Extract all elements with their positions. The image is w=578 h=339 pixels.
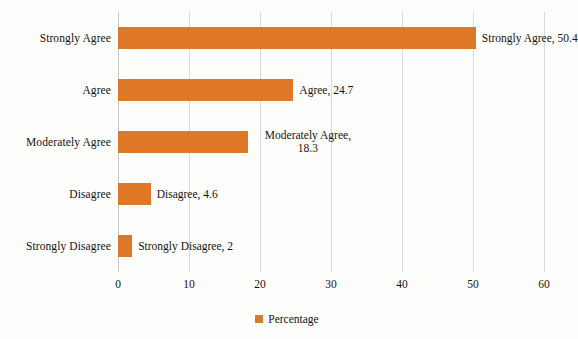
category-label-strongly-agree: Strongly Agree <box>40 32 111 44</box>
bar-moderately-agree[interactable] <box>118 131 248 153</box>
x-tick-label-60: 60 <box>538 278 550 290</box>
bar-row-agree: Agree Agree, 24.7 <box>118 64 544 116</box>
legend: Percentage <box>0 313 574 325</box>
bar-agree[interactable] <box>118 79 293 101</box>
category-label-moderately-agree: Moderately Agree <box>26 136 111 148</box>
data-label-strongly-disagree: Strongly Disagree, 2 <box>132 240 233 253</box>
x-axis-tick-labels: 0102030405060 <box>118 278 544 296</box>
category-label-strongly-disagree: Strongly Disagree <box>26 240 111 252</box>
data-label-moderately-agree: Moderately Agree, 18.3 <box>248 129 362 155</box>
data-label-line-2: 18.3 <box>298 142 318 154</box>
data-label-disagree: Disagree, 4.6 <box>151 188 218 201</box>
legend-swatch-icon <box>255 315 263 323</box>
bar-strongly-agree[interactable] <box>118 27 476 49</box>
x-tick-label-30: 30 <box>325 278 337 290</box>
bar-disagree[interactable] <box>118 183 151 205</box>
x-tick-label-0: 0 <box>115 278 121 290</box>
gridline-60 <box>544 12 545 272</box>
plot-area: Strongly Agree Strongly Agree, 50.4 Agre… <box>118 12 544 272</box>
bar-row-disagree: Disagree Disagree, 4.6 <box>118 168 544 220</box>
x-tick-label-40: 40 <box>396 278 408 290</box>
data-label-line-1: Moderately Agree, <box>265 129 351 141</box>
data-label-strongly-agree: Strongly Agree, 50.4 <box>476 32 578 45</box>
bar-strongly-disagree[interactable] <box>118 235 132 257</box>
bar-row-moderately-agree: Moderately Agree Moderately Agree, 18.3 <box>118 116 544 168</box>
bar-row-strongly-disagree: Strongly Disagree Strongly Disagree, 2 <box>118 220 544 272</box>
x-tick-label-50: 50 <box>467 278 479 290</box>
x-tick-label-20: 20 <box>254 278 266 290</box>
data-label-agree: Agree, 24.7 <box>293 84 353 97</box>
x-tick-label-10: 10 <box>183 278 195 290</box>
legend-label-percentage: Percentage <box>268 313 318 325</box>
category-label-agree: Agree <box>82 84 111 96</box>
category-label-disagree: Disagree <box>69 188 111 200</box>
bar-row-strongly-agree: Strongly Agree Strongly Agree, 50.4 <box>118 12 544 64</box>
